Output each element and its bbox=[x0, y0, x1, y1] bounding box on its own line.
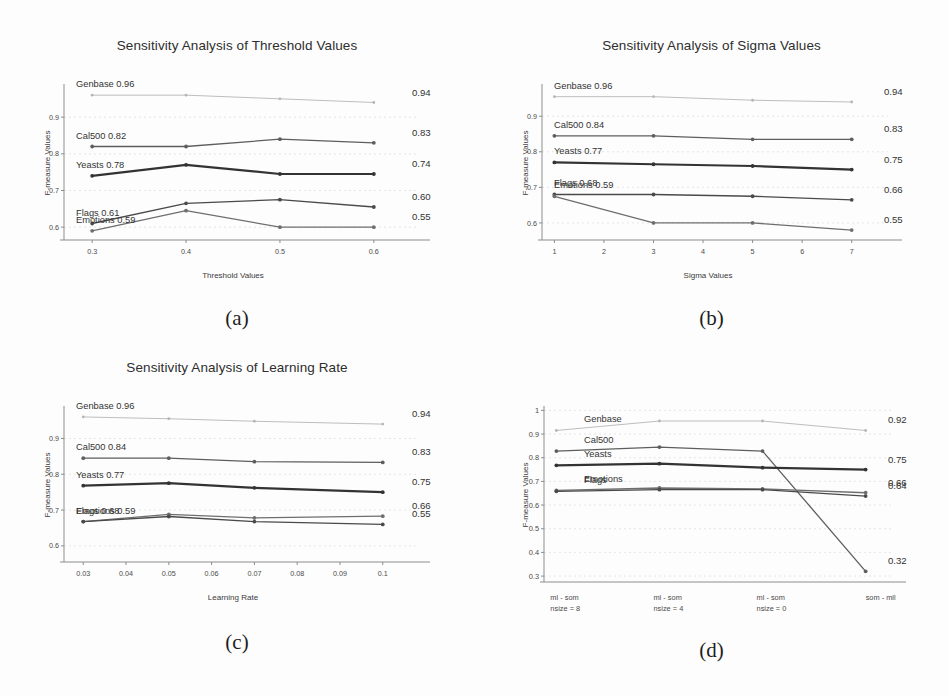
series-line-cal500 bbox=[92, 139, 374, 146]
series-point bbox=[184, 201, 188, 205]
series-point bbox=[278, 198, 282, 202]
series-point bbox=[167, 456, 171, 460]
series-point bbox=[552, 134, 556, 138]
series-point bbox=[751, 164, 755, 168]
y-axis-title: F-measure Values bbox=[521, 131, 530, 196]
series-point bbox=[652, 193, 656, 197]
series-point bbox=[90, 145, 94, 149]
x-tick-label: 0.04 bbox=[119, 569, 133, 578]
series-point bbox=[90, 174, 94, 178]
series-label-genbase: Genbase 0.96 bbox=[554, 81, 612, 91]
x-tick-label: 0.4 bbox=[181, 247, 191, 256]
y-tick-label: 0.9 bbox=[49, 113, 59, 122]
panel-a: Sensitivity Analysis of Threshold Values… bbox=[0, 0, 474, 348]
series-point bbox=[761, 488, 765, 492]
series-end-value-cal500: 0.83 bbox=[884, 123, 903, 134]
series-point bbox=[850, 228, 854, 232]
series-end-value-yeasts: 0.75 bbox=[888, 454, 907, 465]
series-end-value-yeasts: 0.75 bbox=[412, 476, 431, 487]
series-label-genbase: Genbase 0.96 bbox=[76, 401, 134, 411]
series-line-cal500 bbox=[83, 458, 382, 462]
series-label-yeasts: Yeasts 0.78 bbox=[76, 160, 124, 170]
panel-d: 0.30.40.50.60.70.80.91F-measure Valuesml… bbox=[474, 348, 949, 696]
series-point bbox=[652, 95, 655, 98]
series-point bbox=[381, 423, 384, 426]
figure-grid: Sensitivity Analysis of Threshold Values… bbox=[0, 0, 949, 696]
series-point bbox=[381, 514, 385, 518]
series-point bbox=[184, 145, 188, 149]
series-line-yeasts bbox=[554, 162, 851, 169]
series-point bbox=[554, 463, 558, 467]
series-point bbox=[761, 420, 764, 423]
series-end-value-genbase: 0.94 bbox=[412, 87, 431, 98]
chart-title-a: Sensitivity Analysis of Threshold Values bbox=[0, 38, 474, 53]
y-tick-label: 0.4 bbox=[529, 548, 539, 557]
series-point bbox=[850, 198, 854, 202]
series-point bbox=[864, 491, 868, 495]
series-line-genbase bbox=[83, 417, 382, 424]
series-line-yeasts bbox=[83, 483, 382, 492]
series-point bbox=[252, 460, 256, 464]
series-label-genbase: Genbase bbox=[584, 414, 622, 424]
series-point bbox=[167, 417, 170, 420]
series-point bbox=[652, 162, 656, 166]
series-point bbox=[658, 488, 662, 492]
series-label-cal500: Cal500 0.84 bbox=[554, 120, 604, 130]
series-point bbox=[652, 134, 656, 138]
y-axis-title: F-measure Values bbox=[43, 131, 52, 196]
series-point bbox=[81, 484, 85, 488]
series-point bbox=[372, 225, 376, 229]
x-axis-title: Learning Rate bbox=[208, 593, 259, 602]
x-axis-title: Sigma Values bbox=[684, 271, 733, 280]
y-tick-label: 0.9 bbox=[529, 430, 539, 439]
series-point bbox=[658, 420, 661, 423]
x-tick-label: 4 bbox=[701, 247, 705, 256]
series-point bbox=[864, 569, 868, 573]
series-point bbox=[167, 515, 171, 519]
series-end-value-emotions: 0.55 bbox=[412, 211, 431, 222]
series-point bbox=[184, 163, 188, 167]
x-tick-label: 0.05 bbox=[162, 569, 176, 578]
series-point bbox=[751, 194, 755, 198]
series-point bbox=[372, 172, 376, 176]
series-line-emotions bbox=[554, 196, 851, 230]
series-point bbox=[658, 445, 662, 449]
series-end-value-yeasts: 0.75 bbox=[884, 154, 903, 165]
series-point bbox=[554, 489, 558, 493]
series-point bbox=[381, 461, 385, 465]
series-point bbox=[553, 95, 556, 98]
series-line-yeasts bbox=[556, 464, 865, 470]
x-tick-label: ml - som bbox=[757, 593, 785, 602]
x-tick-label: 0.03 bbox=[76, 569, 90, 578]
y-tick-label: 0.9 bbox=[49, 434, 59, 443]
series-point bbox=[552, 161, 556, 165]
subfigure-caption-d: (d) bbox=[474, 638, 949, 663]
x-tick-label: 0.07 bbox=[247, 569, 261, 578]
series-end-value-emotions: 0.55 bbox=[884, 214, 903, 225]
series-line-genbase bbox=[92, 95, 374, 102]
x-tick-label: ml - som bbox=[653, 593, 681, 602]
series-line-yeasts bbox=[92, 165, 374, 176]
series-label-yeasts: Yeasts 0.77 bbox=[554, 146, 602, 156]
x-tick-label: 3 bbox=[651, 247, 655, 256]
x-tick-label: 0.09 bbox=[333, 569, 347, 578]
series-label-cal500: Cal500 bbox=[584, 435, 613, 445]
series-line-genbase bbox=[554, 97, 851, 102]
y-axis-title: F-measure Values bbox=[521, 463, 530, 528]
series-point bbox=[252, 520, 256, 524]
series-point bbox=[82, 416, 85, 419]
series-point bbox=[381, 522, 385, 526]
series-line-cal500 bbox=[554, 136, 851, 140]
x-tick-label: ml - som bbox=[550, 593, 578, 602]
series-line-flags bbox=[554, 194, 851, 199]
panel-c: Sensitivity Analysis of Learning Rate 0.… bbox=[0, 348, 474, 696]
x-tick-label: 0.08 bbox=[290, 569, 304, 578]
series-end-value-cal500: 0.83 bbox=[412, 446, 431, 457]
series-label-emotions: Emotions 0.59 bbox=[76, 215, 135, 225]
x-tick-label: 2 bbox=[602, 247, 606, 256]
series-end-value-flags: 0.60 bbox=[412, 191, 431, 202]
series-point bbox=[372, 101, 375, 104]
series-point bbox=[372, 141, 376, 145]
series-point bbox=[761, 449, 765, 453]
series-point bbox=[751, 221, 755, 225]
